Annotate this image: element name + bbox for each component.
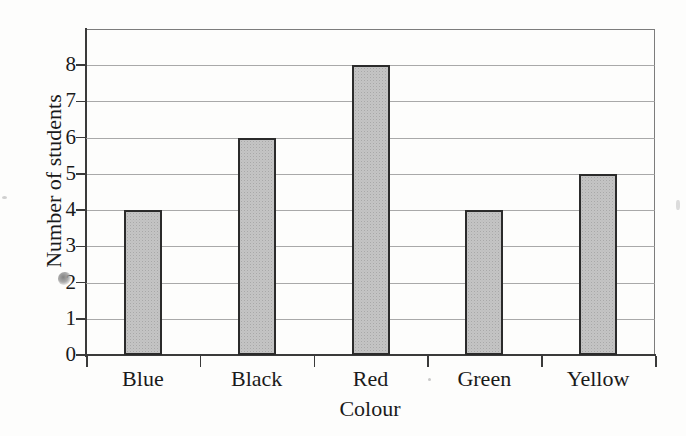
x-axis-title: Colour [0,396,686,422]
x-axis-title-text: Colour [339,396,400,422]
y-axis-tick-mark [76,101,87,103]
y-axis-tick-mark [76,246,87,248]
bar [352,65,390,355]
bar [579,174,617,355]
y-axis-tick-mark [76,282,87,284]
y-axis-line [85,28,87,357]
y-axis-tick-label: 0 [40,344,76,365]
bar [238,138,276,355]
y-axis-tick-label-text: 0 [50,344,76,365]
x-axis-category-label: Green [427,366,541,392]
y-axis-tick-mark [76,137,87,139]
y-axis-tick-mark [76,173,87,175]
x-axis-category-label: Yellow [541,366,655,392]
y-axis-tick-mark [76,64,87,66]
paper-speck-artifact [2,196,7,199]
x-axis-category-label: Red [314,366,428,392]
paper-speck-artifact [676,200,680,210]
bar [465,210,503,355]
bar-chart-figure: 012345678 BlueBlackRedGreenYellow Colour… [0,0,686,436]
x-axis-tick-mark [655,356,657,367]
paper-speck-artifact [428,378,431,381]
x-axis-category-label: Black [200,366,314,392]
y-axis-tick-mark [76,209,87,211]
x-axis-category-label: Blue [86,366,200,392]
y-axis-tick-mark [76,318,87,320]
bar [124,210,162,355]
